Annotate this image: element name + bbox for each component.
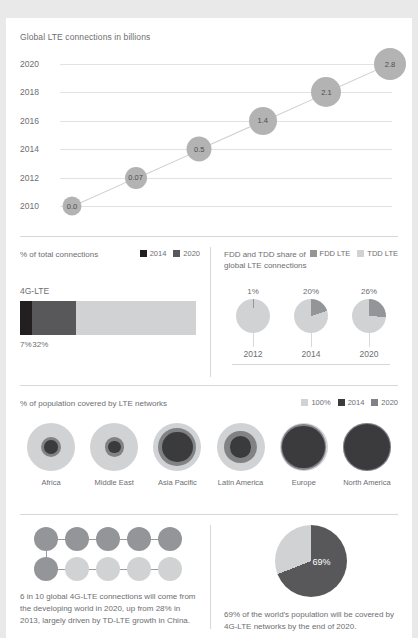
pictogram-dot <box>127 557 151 581</box>
legend-swatch-tdd <box>357 250 364 257</box>
section-bottom: 6 in 10 global 4G-LTE connections will c… <box>6 515 412 637</box>
ring-2020 <box>158 428 196 466</box>
region-item: Middle East <box>83 423 145 487</box>
ring-2014 <box>230 436 251 457</box>
legend-swatch-fdd <box>310 250 317 257</box>
pictogram-dot <box>96 527 120 551</box>
region-item: Latin America <box>210 423 272 487</box>
pictogram-dot <box>65 557 89 581</box>
vertical-divider-2 <box>210 525 211 629</box>
region-name: North America <box>336 478 398 487</box>
coverage-pie-value: 69% <box>312 557 330 567</box>
bar-header: % of total connections 2014 2020 <box>20 249 200 260</box>
ring-100 <box>90 423 138 471</box>
data-bubble: 0.07 <box>125 167 147 189</box>
pictogram-link <box>58 539 65 540</box>
gridline <box>60 206 392 207</box>
pictogram-caption: 6 in 10 global 4G-LTE connections will c… <box>20 591 196 627</box>
infographic-page: Global LTE connections in billions 20102… <box>6 18 412 638</box>
legend-swatch-2020 <box>173 250 180 257</box>
region-name: Middle East <box>83 478 145 487</box>
ring-100 <box>280 423 328 471</box>
legend-item-tdd: TDD LTE <box>357 249 398 258</box>
data-bubble: 2.1 <box>311 77 341 107</box>
pictogram-link <box>120 569 127 570</box>
legend-item-cov-2020: 2020 <box>371 398 398 407</box>
ring-2014 <box>344 424 390 470</box>
pictogram-panel: 6 in 10 global 4G-LTE connections will c… <box>6 515 210 637</box>
pie-chart <box>236 299 270 333</box>
y-axis-tick: 2018 <box>20 87 54 97</box>
pies-panel: FDD and TDD share of global LTE connecti… <box>210 237 412 385</box>
bar-legend: 2014 2020 <box>140 249 200 258</box>
ring-100 <box>343 423 391 471</box>
pies-panel-label: FDD and TDD share of global LTE connecti… <box>224 249 307 271</box>
bar-panel: % of total connections 2014 2020 4G-LTE … <box>6 237 210 385</box>
legend-label-100: 100% <box>311 398 330 407</box>
pie-item: 1%2012 <box>230 287 276 359</box>
gridline <box>60 149 392 150</box>
pie-chart <box>294 299 328 333</box>
gridline <box>60 121 392 122</box>
ring-2020 <box>41 437 61 457</box>
y-axis-tick: 2020 <box>20 59 54 69</box>
legend-item-fdd: FDD LTE <box>310 249 351 258</box>
bigpie-panel: 69% 69% of the world's population will b… <box>210 515 412 637</box>
pictogram-link <box>89 539 96 540</box>
y-axis-tick: 2014 <box>20 144 54 154</box>
ring-100 <box>153 423 201 471</box>
legend-item-2014: 2014 <box>140 249 167 258</box>
region-item: Africa <box>20 423 82 487</box>
region-name: Asia Pacific <box>146 478 208 487</box>
pictogram-link <box>120 539 127 540</box>
pictogram-dot <box>127 527 151 551</box>
section-share-and-fddtdd: % of total connections 2014 2020 4G-LTE … <box>6 237 412 385</box>
bar-series-title: 4G-LTE <box>20 286 200 296</box>
gridline <box>60 178 392 179</box>
data-bubble: 1.4 <box>249 107 277 135</box>
pictogram-dot <box>96 557 120 581</box>
pies-legend: FDD LTE TDD LTE <box>310 249 398 258</box>
pictogram-dot <box>34 527 58 551</box>
pies-header: FDD and TDD share of global LTE connecti… <box>224 249 398 271</box>
pie-value: 20% <box>288 287 334 296</box>
bar-panel-label: % of total connections <box>20 249 98 260</box>
pie-value: 26% <box>346 287 392 296</box>
legend-item-2020: 2020 <box>173 249 200 258</box>
gridline <box>60 64 392 65</box>
pie-group: 1%201220%201426%2020 <box>224 287 398 359</box>
pictogram-link <box>151 539 158 540</box>
pie-stem <box>369 333 370 347</box>
pie-axis-line <box>232 364 390 365</box>
pie-year: 2020 <box>346 349 392 359</box>
region-item: Europe <box>273 423 335 487</box>
pictogram-dot <box>158 527 182 551</box>
legend-label-cov-2020: 2020 <box>381 398 398 407</box>
region-item: Asia Pacific <box>146 423 208 487</box>
pie-value: 1% <box>230 287 276 296</box>
ring-2014 <box>162 432 192 462</box>
coverage-header: % of population covered by LTE networks … <box>20 398 398 409</box>
pie-item: 26%2020 <box>346 287 392 359</box>
data-bubble: 2.8 <box>374 48 406 80</box>
pictogram-link <box>89 569 96 570</box>
ring-2014 <box>282 426 325 469</box>
ring-2020 <box>281 424 326 469</box>
legend-label-fdd: FDD LTE <box>320 249 351 258</box>
pies-label-line2: global LTE connections <box>224 260 307 271</box>
ring-2014 <box>44 440 58 454</box>
ring-100 <box>217 423 265 471</box>
stacked-bar <box>20 301 196 335</box>
legend-item-100: 100% <box>301 398 330 407</box>
pie-chart <box>352 299 386 333</box>
pictogram-link <box>151 569 158 570</box>
ring-2014 <box>108 441 121 454</box>
data-bubble: 0.0 <box>63 197 82 216</box>
y-axis-tick: 2010 <box>20 201 54 211</box>
section-population-coverage: % of population covered by LTE networks … <box>6 386 412 514</box>
ring-2020 <box>224 431 256 463</box>
gridline <box>60 92 392 93</box>
legend-swatch-2014 <box>140 250 147 257</box>
legend-label-2020: 2020 <box>183 249 200 258</box>
legend-item-cov-2014: 2014 <box>338 398 365 407</box>
